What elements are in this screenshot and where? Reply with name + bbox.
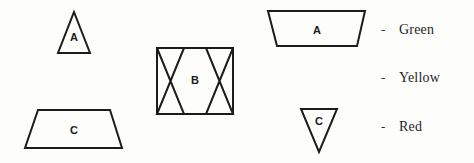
shape-label-bowtie-rect-b-center: B: [187, 75, 203, 86]
legend-dash-icon: -: [381, 22, 399, 38]
shape-bowtie-b-right: [206, 48, 233, 114]
legend-item-yellow: - Yellow: [381, 70, 440, 86]
shape-label-triangle-a-left: A: [66, 32, 82, 43]
shape-label-triangle-c-right: C: [311, 116, 327, 127]
shape-bowtie-b-left: [157, 48, 184, 114]
legend-item-green: - Green: [381, 22, 434, 38]
legend-label-green: Green: [399, 22, 434, 38]
shape-label-trapezoid-c-left: C: [66, 125, 82, 136]
shape-label-trapezoid-a-right: A: [309, 25, 325, 36]
legend-item-red: - Red: [381, 119, 422, 135]
legend-label-red: Red: [399, 119, 422, 135]
legend-dash-icon: -: [381, 70, 399, 86]
legend-dash-icon: -: [381, 119, 399, 135]
legend-label-yellow: Yellow: [399, 70, 440, 86]
